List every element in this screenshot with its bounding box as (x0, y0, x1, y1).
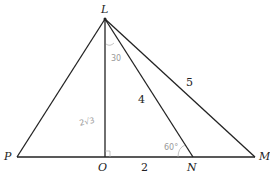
angle-arc-30 (106, 43, 114, 45)
label-M: M (258, 150, 270, 163)
annotation-angle-60: 60° (164, 143, 178, 152)
segment-LP (17, 19, 105, 157)
vertex-L-dot (104, 18, 107, 21)
right-angle-mark (105, 151, 110, 157)
geometry-diagram: L P O N M 5 4 2 2√3 30 60° (0, 0, 270, 174)
label-P: P (3, 150, 12, 163)
label-LN-length: 4 (138, 93, 145, 106)
label-ON-length: 2 (141, 161, 148, 174)
label-L: L (100, 3, 108, 16)
label-N: N (186, 161, 197, 174)
angle-arc-60 (178, 145, 185, 157)
label-O: O (98, 161, 107, 174)
label-LM-length: 5 (186, 76, 193, 89)
annotation-angle-30: 30 (111, 54, 121, 63)
annotation-LO-length: 2√3 (79, 116, 96, 128)
